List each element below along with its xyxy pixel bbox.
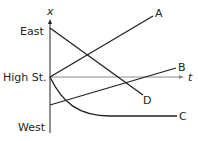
x-axis: x — [46, 5, 54, 133]
west-label: West — [18, 121, 46, 134]
high-st-label: High St. — [3, 71, 47, 84]
series-c: C — [50, 77, 187, 123]
series-b: B — [50, 61, 186, 105]
series-d-label: D — [143, 94, 151, 107]
series-b-label: B — [178, 61, 186, 74]
t-axis-label: t — [188, 71, 193, 84]
series-a-label: A — [155, 7, 163, 20]
x-axis-label: x — [46, 5, 54, 18]
position-time-diagram: x t East High St. West A B D C — [0, 0, 198, 141]
east-label: East — [20, 25, 44, 38]
t-axis: t — [50, 71, 193, 84]
t-axis-arrow-icon — [179, 75, 184, 79]
series-a: A — [50, 7, 163, 77]
x-axis-arrow-icon — [48, 19, 52, 24]
series-c-label: C — [179, 110, 187, 123]
